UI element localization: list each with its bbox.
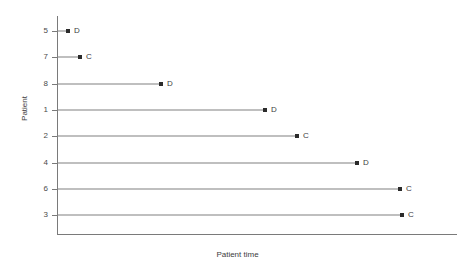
timeline-endpoint-label: C xyxy=(406,185,412,193)
timeline-endpoint-marker xyxy=(295,134,299,138)
y-axis-tick-label: 5 xyxy=(0,27,48,35)
timeline-endpoint-label: D xyxy=(167,80,173,88)
timeline-line xyxy=(57,109,265,110)
timeline-line xyxy=(57,57,80,58)
timeline-endpoint-label: D xyxy=(271,106,277,114)
timeline-line xyxy=(57,215,402,216)
timeline-endpoint-label: C xyxy=(86,53,92,61)
x-axis-line xyxy=(57,234,457,235)
timeline-line xyxy=(57,83,161,84)
timeline-line xyxy=(57,188,400,189)
timeline-endpoint-label: C xyxy=(303,132,309,140)
timeline-endpoint-marker xyxy=(263,108,267,112)
timeline-endpoint-marker xyxy=(400,213,404,217)
y-axis-tick-label: 6 xyxy=(0,185,48,193)
timeline-endpoint-marker xyxy=(398,187,402,191)
timeline-endpoint-marker xyxy=(355,161,359,165)
patient-time-chart: 5D7C8D1D2C4D6C3C Patient time Patient xyxy=(0,0,475,272)
y-axis-tick-label: 7 xyxy=(0,53,48,61)
x-axis-title: Patient time xyxy=(0,250,475,259)
y-axis-title: Patient xyxy=(20,79,29,139)
y-axis-line xyxy=(57,16,58,235)
y-axis-tick-label: 4 xyxy=(0,159,48,167)
timeline-endpoint-marker xyxy=(78,55,82,59)
timeline-endpoint-label: D xyxy=(363,159,369,167)
timeline-endpoint-marker xyxy=(66,29,70,33)
timeline-endpoint-marker xyxy=(159,82,163,86)
timeline-endpoint-label: C xyxy=(408,211,414,219)
timeline-endpoint-label: D xyxy=(74,27,80,35)
y-axis-tick-label: 3 xyxy=(0,211,48,219)
timeline-line xyxy=(57,162,357,163)
timeline-line xyxy=(57,136,297,137)
